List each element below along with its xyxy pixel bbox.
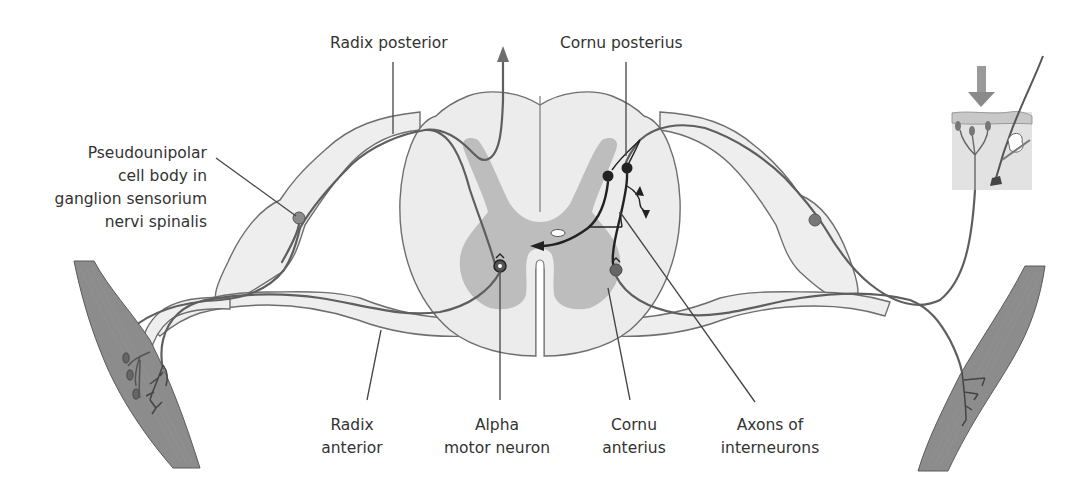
anterior-median-fissure: [536, 260, 544, 356]
label-radix-anterior-1: Radix: [330, 416, 373, 434]
label-axons-1: Axons of: [737, 416, 804, 434]
label-pseudounipolar-2: cell body in: [118, 167, 207, 185]
right-pseudounipolar-cell-body: [809, 214, 821, 226]
reflex-arc-diagram: Radix posterior Cornu posterius Pseudoun…: [0, 0, 1079, 496]
right-posterior-root: [660, 112, 858, 305]
skin-inset: [952, 56, 1043, 190]
central-canal: [551, 230, 565, 237]
label-axons-2: interneurons: [721, 439, 819, 457]
receptor-bulb-2: [969, 126, 975, 136]
left-spinal-nerve-trunk: [140, 298, 230, 354]
leader-radix-anterior: [367, 330, 381, 400]
label-cornu-anterius-2: anterius: [602, 439, 666, 457]
right-muscle: [918, 266, 1045, 471]
receptor-bulb-3: [985, 121, 991, 131]
receptor-bulb-1: [955, 121, 961, 131]
label-alpha-motor-2: motor neuron: [444, 439, 550, 457]
left-pseudounipolar-cell-body: [293, 212, 305, 224]
interneuron-cell-body-1: [603, 171, 614, 182]
alpha-motor-neuron-right: [610, 264, 622, 276]
alpha-motor-neuron-nucleus: [498, 264, 502, 268]
label-alpha-motor-1: Alpha: [475, 416, 519, 434]
stimulus-arrow-head: [968, 92, 995, 107]
skin-epidermis: [952, 111, 1032, 124]
label-pseudounipolar-3: ganglion sensorium: [55, 190, 207, 208]
label-cornu-anterius-1: Cornu: [611, 416, 657, 434]
label-cornu-posterius: Cornu posterius: [560, 34, 683, 52]
ascending-arrow-head: [497, 46, 509, 62]
label-pseudounipolar-1: Pseudounipolar: [88, 144, 208, 162]
label-pseudounipolar-4: nervi spinalis: [105, 213, 207, 231]
stimulus-arrow-shaft: [977, 66, 986, 92]
label-radix-posterior: Radix posterior: [330, 34, 448, 52]
interneuron-cell-body-2: [622, 163, 633, 174]
leader-pseudounipolar: [216, 158, 296, 216]
label-radix-anterior-2: anterior: [321, 439, 383, 457]
